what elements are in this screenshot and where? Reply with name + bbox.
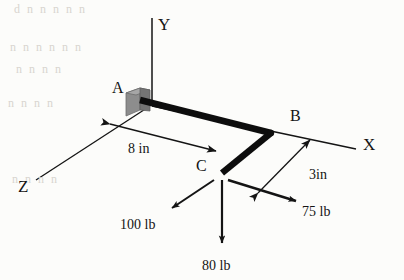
force-75lb-arrow xyxy=(228,180,296,201)
dimension-3in-label: 3in xyxy=(309,168,327,182)
force-100lb-arrow xyxy=(172,180,214,208)
beam-segment-ab xyxy=(140,100,271,133)
z-axis-label: Z xyxy=(18,178,28,195)
x-axis-label: X xyxy=(363,136,375,153)
beam-segment-bc xyxy=(222,133,271,173)
force-75lb-label: 75 lb xyxy=(302,205,330,219)
force-100lb-label: 100 lb xyxy=(120,218,155,232)
force-vectors xyxy=(172,180,296,243)
scan-artifact: n n n n xyxy=(16,62,63,77)
force-80lb-label: 80 lb xyxy=(202,259,230,273)
dimension-8in-leader xyxy=(110,124,216,151)
scan-artifact: n n n n n n xyxy=(10,40,83,55)
scan-artifact: n n n n xyxy=(8,96,55,111)
y-axis-label: Y xyxy=(158,16,170,33)
dimension-3in-leader xyxy=(258,140,310,193)
scan-artifact: d n n n n n xyxy=(14,2,87,17)
point-a-label: A xyxy=(112,80,124,96)
point-b-label: B xyxy=(290,108,301,124)
dimension-8in-label: 8 in xyxy=(128,142,149,156)
axis-lines xyxy=(36,18,356,180)
point-c-label: C xyxy=(196,158,207,174)
figure-canvas: d n n n n n n n n n n n n n n n n n n n … xyxy=(0,0,404,280)
